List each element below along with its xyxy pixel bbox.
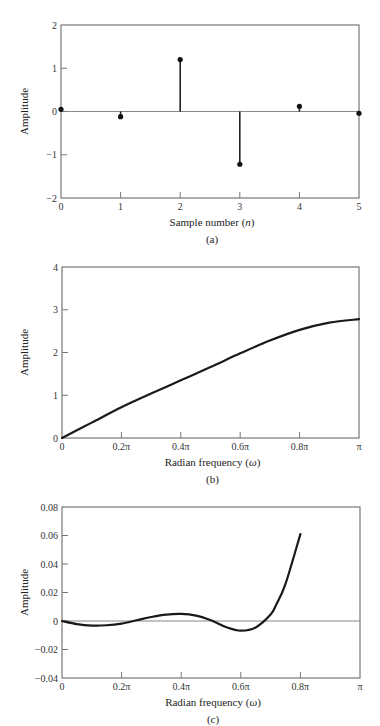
figure-c-error-plot: −0.04−0.0200.020.040.060.0800.2π0.4π0.6π… — [0, 0, 380, 726]
x-tick-label: 0.8π — [292, 681, 310, 692]
y-tick-label: 0.08 — [41, 502, 59, 513]
y-tick-label: 0.04 — [41, 559, 59, 570]
x-tick-label: 0.6π — [232, 681, 250, 692]
x-tick-label: 0 — [60, 681, 65, 692]
y-tick-label: −0.02 — [35, 644, 58, 655]
data-curve — [62, 534, 300, 631]
x-tick-label: π — [357, 681, 362, 692]
y-tick-label: −0.04 — [35, 673, 58, 684]
x-axis-label: Radian frequency (ω) — [165, 696, 261, 709]
y-tick-label: 0.06 — [41, 530, 59, 541]
y-tick-label: 0.02 — [41, 587, 59, 598]
plot-frame — [62, 507, 360, 678]
y-axis-label: Amplitude — [18, 569, 30, 616]
chart-c-canvas: −0.04−0.0200.020.040.060.0800.2π0.4π0.6π… — [0, 0, 380, 726]
x-tick-label: 0.4π — [172, 681, 190, 692]
x-tick-label: 0.2π — [113, 681, 131, 692]
y-tick-label: 0 — [53, 616, 58, 627]
figure-caption: (c) — [207, 713, 220, 726]
